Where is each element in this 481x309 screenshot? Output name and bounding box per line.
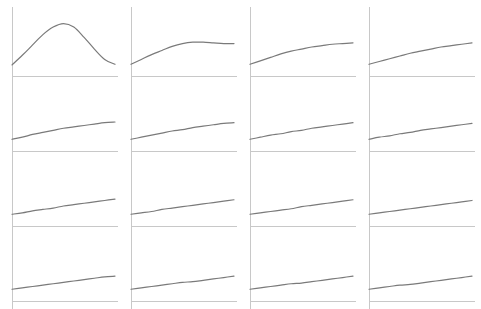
chart-panel-5 bbox=[12, 82, 118, 159]
data-line bbox=[12, 276, 115, 289]
data-line bbox=[250, 43, 353, 64]
data-line bbox=[369, 43, 472, 64]
chart-panel-1 bbox=[12, 7, 118, 84]
data-line bbox=[12, 122, 115, 139]
chart-panel-11 bbox=[250, 157, 356, 234]
chart-panel-3 bbox=[250, 7, 356, 84]
chart-panel-15 bbox=[250, 232, 356, 309]
chart-grid-canvas bbox=[0, 0, 481, 309]
data-line bbox=[369, 200, 472, 214]
chart-panel-10 bbox=[131, 157, 237, 234]
chart-panel-13 bbox=[12, 232, 118, 309]
chart-panel-16 bbox=[369, 232, 475, 309]
small-multiples-grid bbox=[0, 0, 481, 309]
chart-panel-2 bbox=[131, 7, 237, 84]
data-line bbox=[369, 276, 472, 289]
data-line bbox=[12, 199, 115, 214]
data-line bbox=[250, 200, 353, 214]
data-line bbox=[250, 123, 353, 140]
data-line bbox=[250, 276, 353, 289]
data-line bbox=[12, 24, 115, 65]
chart-panel-8 bbox=[369, 82, 475, 159]
data-line bbox=[131, 42, 234, 64]
chart-panel-4 bbox=[369, 7, 475, 84]
chart-panel-12 bbox=[369, 157, 475, 234]
chart-panel-7 bbox=[250, 82, 356, 159]
chart-panel-6 bbox=[131, 82, 237, 159]
chart-panel-9 bbox=[12, 157, 118, 234]
data-line bbox=[131, 276, 234, 289]
chart-panel-14 bbox=[131, 232, 237, 309]
data-line bbox=[131, 200, 234, 214]
data-line bbox=[369, 123, 472, 139]
data-line bbox=[131, 123, 234, 140]
